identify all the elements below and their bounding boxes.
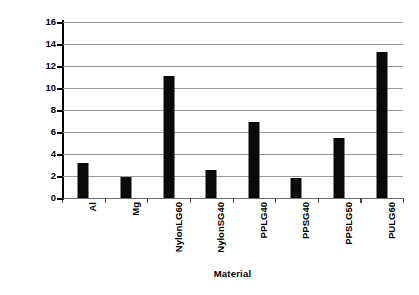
y-axis-tick-label: 14 bbox=[34, 39, 56, 49]
x-axis-category-label: PULG60 bbox=[387, 202, 397, 239]
x-axis-category-label-slot: NylonSG40 bbox=[190, 202, 233, 264]
y-axis-tick-label: 4 bbox=[34, 149, 56, 159]
bar-chart: Notched Izod (ft-lb/in) 0246810121416 Al… bbox=[0, 0, 419, 295]
y-axis-tick-mark bbox=[57, 198, 63, 200]
x-axis-category-label-slot: PPLG40 bbox=[233, 202, 276, 264]
y-axis-tick-label: 2 bbox=[34, 171, 56, 181]
x-axis-category-labels: AlMgNylonLG60NylonSG40PPLG40PPSG40PPSLG5… bbox=[62, 202, 403, 264]
bar-slot bbox=[190, 22, 233, 198]
y-axis-tick-label: 12 bbox=[34, 61, 56, 71]
x-axis-category-label: NylonLG60 bbox=[174, 202, 184, 252]
y-axis-tick-label: 8 bbox=[34, 105, 56, 115]
bar-slot bbox=[318, 22, 361, 198]
x-axis-category-label-slot: PPSG40 bbox=[275, 202, 318, 264]
x-axis-category-label-slot: Mg bbox=[105, 202, 148, 264]
x-axis-category-label-slot: PPSLG50 bbox=[318, 202, 361, 264]
y-axis-tick-mark bbox=[57, 154, 63, 156]
x-axis-category-label: PPSLG50 bbox=[344, 202, 354, 245]
bar bbox=[248, 122, 259, 198]
y-axis-tick-label: 6 bbox=[34, 127, 56, 137]
x-axis-category-label: PPLG40 bbox=[259, 202, 269, 238]
bar bbox=[334, 138, 345, 198]
bar bbox=[291, 178, 302, 198]
bar bbox=[206, 170, 217, 198]
bar-slot bbox=[147, 22, 190, 198]
x-axis-category-label-slot: Al bbox=[62, 202, 105, 264]
y-axis-tick-mark bbox=[57, 132, 63, 134]
y-axis-tick-mark bbox=[57, 22, 63, 24]
y-axis-tick-label: 0 bbox=[34, 193, 56, 203]
y-axis-tick-label: 10 bbox=[34, 83, 56, 93]
x-axis-category-label: Mg bbox=[131, 202, 141, 216]
x-axis-category-label: NylonSG40 bbox=[216, 202, 226, 253]
y-axis-tick-mark bbox=[57, 110, 63, 112]
x-axis-category-label-slot: NylonLG60 bbox=[147, 202, 190, 264]
bar bbox=[120, 177, 131, 198]
x-axis-tick-mark bbox=[403, 198, 404, 203]
y-axis-tick-mark bbox=[57, 176, 63, 178]
bar-slot bbox=[62, 22, 105, 198]
bar-slot bbox=[105, 22, 148, 198]
x-axis-category-label-slot: PULG60 bbox=[360, 202, 403, 264]
bar bbox=[376, 52, 387, 198]
y-axis-tick-mark bbox=[57, 66, 63, 68]
y-axis-tick-labels: 0246810121416 bbox=[30, 0, 56, 295]
y-axis-tick-mark bbox=[57, 44, 63, 46]
x-axis-category-label: Al bbox=[88, 202, 98, 212]
bar-slot bbox=[233, 22, 276, 198]
x-axis-category-label: PPSG40 bbox=[301, 202, 311, 239]
y-axis-tick-mark bbox=[57, 88, 63, 90]
x-axis-title: Material bbox=[62, 268, 403, 279]
bar bbox=[163, 76, 174, 198]
plot-area bbox=[62, 22, 403, 198]
bar-slot bbox=[360, 22, 403, 198]
y-axis-tick-label: 16 bbox=[34, 17, 56, 27]
bar bbox=[78, 163, 89, 198]
bar-slot bbox=[275, 22, 318, 198]
